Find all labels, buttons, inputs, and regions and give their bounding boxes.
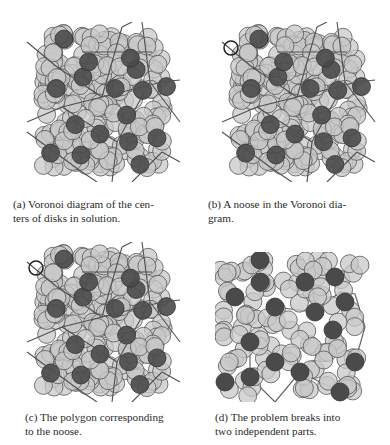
panel-d	[195, 230, 390, 410]
disk-packing	[34, 25, 175, 177]
caption-b: (b) A noose in the Voronoi dia- gram.	[208, 197, 383, 225]
independent-parts-figure	[215, 252, 375, 402]
caption-b-line2: gram.	[208, 211, 383, 225]
caption-d: (d) The problem breaks into two independ…	[215, 410, 385, 438]
caption-d-line2: two independent parts.	[215, 424, 385, 438]
disk-packing	[229, 25, 370, 177]
caption-a-line2: ters of disks in solution.	[13, 211, 188, 225]
caption-b-line1: (b) A noose in the Voronoi dia-	[208, 197, 383, 211]
caption-d-line1: (d) The problem breaks into	[215, 410, 385, 424]
disk-packing	[34, 245, 175, 397]
panel-b	[195, 0, 390, 200]
caption-a: (a) Voronoi diagram of the cen- ters of …	[13, 197, 188, 225]
caption-c: (c) The polygon corresponding to the noo…	[25, 410, 195, 438]
noose-voronoi-figure	[217, 22, 377, 182]
voronoi-diagram-figure	[22, 22, 182, 182]
panel-a	[0, 0, 195, 200]
panel-c	[0, 230, 195, 410]
caption-c-line1: (c) The polygon corresponding	[25, 410, 195, 424]
caption-a-line1: (a) Voronoi diagram of the cen-	[13, 197, 188, 211]
caption-c-line2: to the noose.	[25, 424, 195, 438]
noose-polygon-figure	[22, 242, 182, 402]
